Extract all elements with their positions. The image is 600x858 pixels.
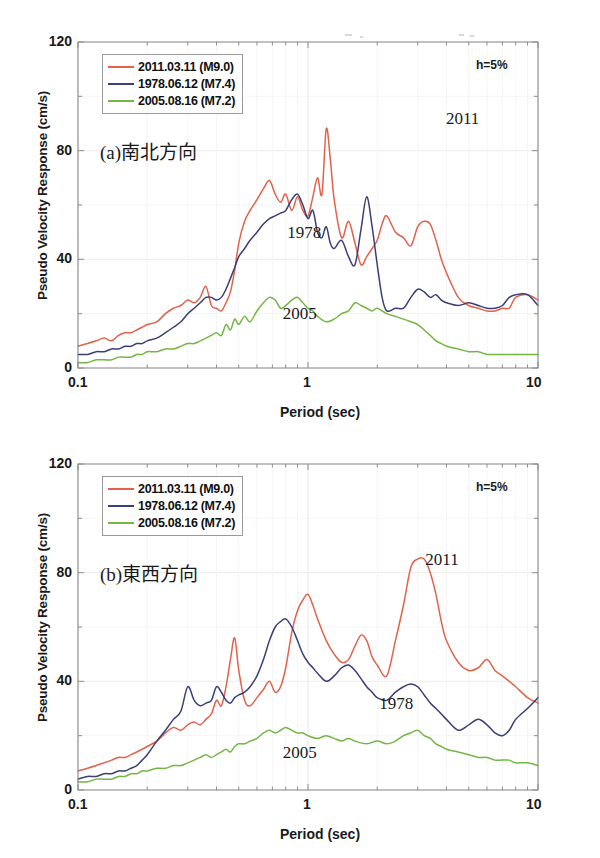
x-tick-label-1-a: 1 [303, 374, 311, 390]
x-tick-label-10-b: 10 [526, 796, 542, 812]
legend-item-1978-b: 1978.06.12 (M7.4) [108, 497, 235, 514]
panel-label-b: (b)東西方向 [100, 559, 198, 586]
legend-a: 2011.03.11 (M9.0) 1978.06.12 (M7.4) 2005… [102, 54, 243, 114]
legend-swatch-1978-a [108, 83, 134, 85]
x-tick-label-10-a: 10 [526, 374, 542, 390]
curve-annotation-1978-a: 1978 [287, 223, 321, 243]
curve-annotation-2005-a: 2005 [283, 304, 317, 324]
y-axis-title-a: Pseudo Velocity Response (cm/s) [35, 46, 50, 346]
legend-item-2011-b: 2011.03.11 (M9.0) [108, 480, 235, 497]
legend-item-2005-b: 2005.08.16 (M7.2) [108, 514, 235, 531]
y-tick-label-80-b: 80 [26, 564, 72, 580]
x-axis-title-b: Period (sec) [150, 826, 490, 842]
legend-b: 2011.03.11 (M9.0) 1978.06.12 (M7.4) 2005… [102, 476, 243, 536]
y-axis-title-b: Pseudo Velocity Response (cm/s) [35, 468, 50, 768]
curve-annotation-2011-a: 2011 [446, 109, 479, 129]
plot-area-b [0, 432, 600, 852]
legend-label-1978-a: 1978.06.12 (M7.4) [138, 77, 235, 91]
chart-panel-b: Pseudo Velocity Response (cm/s) Period (… [0, 432, 600, 852]
legend-item-2011-a: 2011.03.11 (M9.0) [108, 58, 235, 75]
legend-item-2005-a: 2005.08.16 (M7.2) [108, 92, 235, 109]
y-tick-label-120-a: 120 [26, 33, 72, 49]
x-axis-title-a: Period (sec) [150, 404, 490, 420]
scan-speck [360, 36, 363, 38]
legend-swatch-2005-b [108, 522, 134, 524]
curve-annotation-2005-b: 2005 [283, 743, 317, 763]
legend-label-1978-b: 1978.06.12 (M7.4) [138, 499, 235, 513]
x-tick-label-0.1-a: 0.1 [68, 374, 87, 390]
legend-swatch-2005-a [108, 100, 134, 102]
scan-speck [459, 34, 464, 36]
y-tick-label-0-a: 0 [26, 359, 72, 375]
legend-label-2011-a: 2011.03.11 (M9.0) [138, 60, 234, 74]
chart-panel-a: Pseudo Velocity Response (cm/s) Period (… [0, 10, 600, 430]
y-tick-label-40-b: 40 [26, 672, 72, 688]
legend-swatch-2011-b [108, 488, 134, 490]
y-tick-label-120-b: 120 [26, 455, 72, 471]
legend-label-2005-b: 2005.08.16 (M7.2) [138, 516, 235, 530]
response-spectra-figure: Pseudo Velocity Response (cm/s) Period (… [0, 0, 600, 858]
x-tick-label-1-b: 1 [303, 796, 311, 812]
damping-note-b: h=5% [476, 480, 508, 494]
panel-label-a: (a)南北方向 [100, 137, 197, 164]
y-tick-label-0-b: 0 [26, 781, 72, 797]
curve-annotation-2011-b: 2011 [425, 550, 458, 570]
curve-annotation-1978-b: 1978 [379, 694, 413, 714]
legend-swatch-1978-b [108, 505, 134, 507]
plot-area-a [0, 10, 600, 430]
y-tick-label-80-a: 80 [26, 142, 72, 158]
y-tick-label-40-a: 40 [26, 250, 72, 266]
legend-label-2011-b: 2011.03.11 (M9.0) [138, 482, 234, 496]
damping-note-a: h=5% [476, 58, 508, 72]
x-tick-label-0.1-b: 0.1 [68, 796, 87, 812]
legend-label-2005-a: 2005.08.16 (M7.2) [138, 94, 235, 108]
scan-speck [345, 34, 352, 36]
legend-item-1978-a: 1978.06.12 (M7.4) [108, 75, 235, 92]
legend-swatch-2011-a [108, 66, 134, 68]
scan-speck [470, 35, 474, 37]
